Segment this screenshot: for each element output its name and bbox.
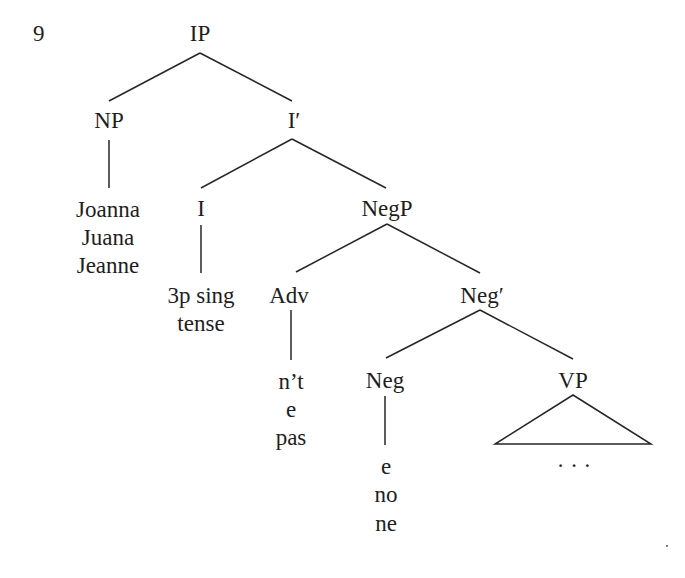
leaf-np-jeanne: Jeanne xyxy=(77,252,140,280)
leaf-neg-ne: ne xyxy=(375,510,397,538)
node-np: NP xyxy=(94,107,123,135)
edge-negbar-vp xyxy=(480,310,573,359)
leaf-adv-e: e xyxy=(286,396,296,424)
leaf-i-3p-sing: 3p sing xyxy=(167,282,234,310)
node-neg: Neg xyxy=(366,367,404,395)
tree-branches xyxy=(0,0,685,578)
node-neg-bar: Neg′ xyxy=(460,282,503,310)
stray-dot xyxy=(666,545,668,547)
edge-ip-ibar xyxy=(200,53,292,101)
node-i: I xyxy=(197,195,205,223)
leaf-neg-e: e xyxy=(381,453,391,481)
leaf-np-joanna: Joanna xyxy=(76,196,140,224)
vp-triangle xyxy=(495,395,651,444)
example-number: 9 xyxy=(33,20,45,48)
leaf-adv-pas: pas xyxy=(276,424,307,452)
node-i-bar: I′ xyxy=(288,107,301,135)
edge-ibar-i xyxy=(201,139,292,188)
edge-negp-adv xyxy=(296,224,387,272)
node-ip: IP xyxy=(190,20,210,48)
node-vp: VP xyxy=(558,367,587,395)
node-adv: Adv xyxy=(269,282,309,310)
leaf-vp-ellipsis: · · · xyxy=(557,452,591,480)
edge-negp-negbar xyxy=(387,224,480,273)
edge-ip-np xyxy=(109,53,200,101)
leaf-i-tense: tense xyxy=(177,310,224,338)
edge-negbar-neg xyxy=(386,310,480,358)
node-negp: NegP xyxy=(361,195,412,223)
edge-ibar-negp xyxy=(292,139,386,188)
leaf-neg-no: no xyxy=(375,481,398,509)
leaf-adv-nt: n’t xyxy=(278,368,303,396)
leaf-np-juana: Juana xyxy=(82,224,134,252)
